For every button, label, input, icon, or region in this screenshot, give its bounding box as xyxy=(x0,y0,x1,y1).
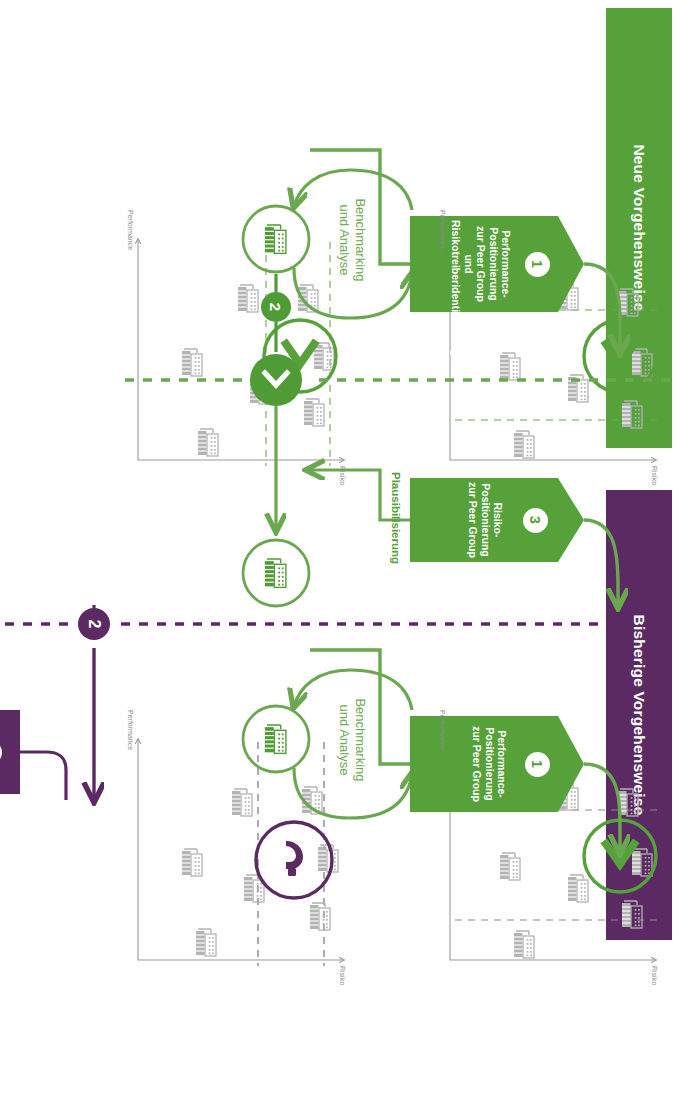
step-number-badge: 1 xyxy=(525,752,550,777)
company-icon-old-left xyxy=(243,706,309,772)
loop-label-new: Benchmarking und Analyse xyxy=(337,192,368,288)
step-arrow-label: Performance-Positionierung zur Peer Grou… xyxy=(450,220,512,308)
divider-node-green xyxy=(250,354,302,406)
axis-label-risiko: Risiko xyxy=(339,966,346,985)
company-icon-new-left xyxy=(243,206,309,272)
axis-label-performance: Performance xyxy=(127,710,134,750)
step-arrow-old-1[interactable]: 1 Performance-Positionierung zur Peer Gr… xyxy=(410,716,584,812)
step-dot-new-2[interactable]: 2 xyxy=(261,292,291,322)
step-arrow-old-3[interactable]: 3 Risiko-Profil der Peer Group xyxy=(0,710,20,794)
chart-new-risk xyxy=(138,239,344,466)
diagram-canvas: Bisherige Vorgehensweise Neue Vorgehensw… xyxy=(0,0,680,1117)
step-number-badge: 1 xyxy=(525,252,550,277)
question-mark-icon xyxy=(286,841,303,876)
axis-label-risiko: Risiko xyxy=(339,466,346,485)
axis-label-risiko: Risiko xyxy=(651,966,658,985)
step-arrow-new-3[interactable]: 3 Risiko-Positionierung zur Peer Group xyxy=(410,478,584,562)
step-arrow-label: Risiko-Positionierung zur Peer Group xyxy=(467,481,504,559)
axis-label-performance: Performance xyxy=(439,210,446,250)
axis-label-performance: Performance xyxy=(439,710,446,750)
axis-label-performance: Performance xyxy=(127,210,134,250)
step-number-badge: 3 xyxy=(523,508,548,533)
loop-label-old: Benchmarking und Analyse xyxy=(337,692,368,788)
company-icon-new-right xyxy=(243,540,309,606)
connector-old-step3-up xyxy=(20,752,66,800)
chart-old-risk xyxy=(138,739,344,966)
step-dot-old-2[interactable]: 2 xyxy=(78,608,110,640)
diagram-root: Bisherige Vorgehensweise Neue Vorgehensw… xyxy=(0,0,680,1117)
step3-side-label-new: Plausibilisierung xyxy=(390,472,402,564)
connector-step3-to-chart xyxy=(584,520,618,606)
step-arrow-new-1[interactable]: 1 Performance-Positionierung zur Peer Gr… xyxy=(410,216,584,312)
axis-label-risiko: Risiko xyxy=(651,466,658,485)
step-arrow-label: Performance-Positionierung zur Peer Grou… xyxy=(471,720,508,808)
